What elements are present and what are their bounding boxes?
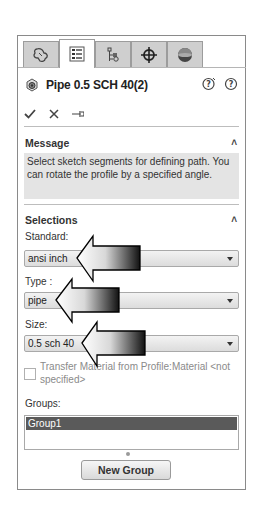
- transfer-material-checkbox[interactable]: [24, 368, 36, 380]
- standard-label: Standard:: [25, 231, 68, 242]
- message-heading: Message: [25, 137, 69, 149]
- collapse-caret-icon[interactable]: ˄: [231, 214, 237, 225]
- listbox-resize-handle[interactable]: [126, 452, 130, 456]
- standard-select[interactable]: ansi inch: [24, 250, 239, 267]
- new-group-button[interactable]: New Group: [81, 460, 171, 480]
- property-manager-panel: Pipe 0.5 SCH 40(2) ? ? Message ˄ Select …: [17, 35, 246, 490]
- collapse-caret-icon[interactable]: ˄: [231, 137, 237, 148]
- pipe-feature-icon: [24, 77, 40, 93]
- help-icon[interactable]: ?: [224, 77, 238, 91]
- chevron-down-icon: [227, 342, 233, 346]
- transfer-material-row: Transfer Material from Profile:Material …: [24, 360, 239, 388]
- property-list-icon: [68, 45, 86, 63]
- feature-title-row: Pipe 0.5 SCH 40(2) ? ?: [24, 76, 242, 94]
- groups-label: Groups:: [25, 398, 61, 409]
- selections-heading: Selections: [25, 214, 78, 226]
- tab-feature-manager[interactable]: [23, 41, 59, 67]
- size-value: 0.5 sch 40: [28, 338, 74, 349]
- manager-tabs: [21, 39, 243, 67]
- transfer-material-label: Transfer Material from Profile:Material …: [40, 360, 230, 386]
- feature-title: Pipe 0.5 SCH 40(2): [46, 78, 148, 92]
- message-section-header[interactable]: Message ˄: [25, 137, 239, 149]
- message-text: Select sketch segments for defining path…: [24, 153, 239, 199]
- type-value: pipe: [28, 295, 47, 306]
- action-row: [24, 108, 84, 120]
- chevron-down-icon: [227, 299, 233, 303]
- crosshair-icon: [140, 46, 158, 64]
- help-icons: ? ?: [202, 77, 238, 91]
- whats-wrong-help-icon[interactable]: ?: [202, 77, 216, 91]
- appearance-sphere-icon: [176, 46, 194, 64]
- type-label: Type :: [25, 276, 52, 287]
- group-list-item[interactable]: Group1: [26, 417, 237, 430]
- type-select[interactable]: pipe: [24, 292, 239, 309]
- chevron-down-icon: [227, 257, 233, 261]
- svg-text:?: ?: [206, 80, 211, 89]
- configuration-icon: [104, 46, 122, 64]
- tab-property-manager[interactable]: [59, 39, 95, 68]
- groups-listbox[interactable]: Group1: [24, 415, 239, 450]
- divider: [24, 204, 239, 205]
- pushpin-icon[interactable]: [72, 108, 84, 120]
- size-select[interactable]: 0.5 sch 40: [24, 335, 239, 352]
- tab-display-manager[interactable]: [167, 41, 203, 67]
- close-icon[interactable]: [48, 108, 60, 120]
- tab-configuration-manager[interactable]: [95, 41, 131, 67]
- tab-dimxpert-manager[interactable]: [131, 41, 167, 67]
- standard-value: ansi inch: [28, 253, 67, 264]
- selections-section-header[interactable]: Selections ˄: [25, 214, 239, 226]
- svg-text:?: ?: [229, 80, 234, 89]
- divider: [24, 126, 239, 127]
- size-label: Size:: [25, 319, 47, 330]
- parts-icon: [32, 46, 50, 64]
- check-icon[interactable]: [24, 108, 36, 120]
